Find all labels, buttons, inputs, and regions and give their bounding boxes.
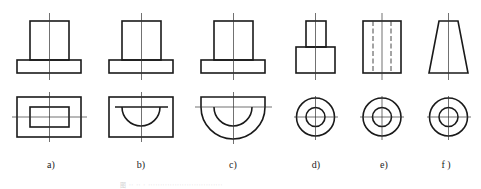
subfigure-b-top-view <box>109 92 173 142</box>
subfigure-f-top-view <box>427 96 471 140</box>
subfigure-e-top-view <box>360 96 404 140</box>
subfigure-a-top-view <box>12 92 87 142</box>
subfigure-label-c: c) <box>229 159 237 170</box>
subfigure-label-d: d) <box>312 159 320 170</box>
subfigure-label-a: a) <box>47 159 55 170</box>
subfigure-a-front-view <box>17 13 81 80</box>
subfigure-label-e: e) <box>380 159 388 170</box>
subfigure-b-front-view <box>109 13 173 80</box>
figure-caption: 图 ·· ·· · ······························… <box>120 180 370 189</box>
drawing-canvas: a) b) c) d) e) f ) 图 ·· ·· · ···········… <box>0 0 481 189</box>
subfigure-d-front-view <box>296 13 335 80</box>
technical-drawing <box>0 0 481 189</box>
subfigure-label-f: f ) <box>441 159 450 170</box>
subfigure-c-front-view <box>201 13 265 80</box>
subfigure-f-front-view <box>429 13 468 80</box>
subfigure-c-top-view <box>195 92 272 144</box>
subfigure-e-front-view <box>363 13 401 80</box>
subfigure-d-top-view <box>294 96 338 140</box>
subfigure-label-b: b) <box>137 159 145 170</box>
